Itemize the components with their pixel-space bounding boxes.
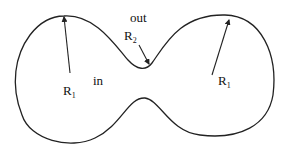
r2-arrow xyxy=(139,45,149,64)
dumbbell-outline xyxy=(15,15,274,143)
left-r1-arrow xyxy=(64,17,70,73)
outside-label: out xyxy=(130,11,147,24)
inside-label: in xyxy=(93,74,103,87)
right-r1-arrow xyxy=(212,20,229,75)
right-radius-label: R1 xyxy=(218,74,231,90)
left-radius-label: R1 xyxy=(63,84,76,100)
neck-radius-label: R2 xyxy=(124,29,137,45)
